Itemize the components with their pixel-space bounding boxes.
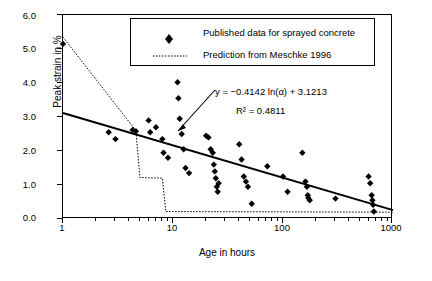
legend: Published data for sprayed concrete Pred…: [130, 18, 375, 66]
data-point: [182, 165, 188, 171]
data-point: [368, 192, 374, 198]
data-point: [175, 95, 181, 101]
data-point: [179, 131, 185, 137]
x-tick-1: 1: [42, 222, 82, 233]
x-minor-tickmark: [155, 218, 156, 221]
y-tick-0: 0.0: [0, 212, 36, 223]
y-axis-label: Peak strain in %: [52, 12, 63, 132]
y-tick-2: 2.0: [0, 145, 36, 156]
data-point: [367, 180, 373, 186]
legend-item-1-label: Prediction from Meschke 1996: [203, 49, 331, 60]
data-point: [186, 170, 192, 176]
x-minor-tickmark: [348, 218, 349, 221]
legend-markers: [141, 28, 201, 60]
x-minor-tickmark: [161, 218, 162, 221]
x-minor-tickmark: [277, 218, 278, 221]
data-point: [211, 161, 217, 167]
data-point: [284, 189, 290, 195]
data-point: [165, 155, 171, 161]
x-minor-tickmark: [381, 218, 382, 221]
y-tick-6: 6.0: [0, 10, 36, 21]
x-minor-tickmark: [167, 218, 168, 221]
series-trendline: [63, 113, 393, 210]
x-minor-tickmark: [148, 218, 149, 221]
x-minor-tickmark: [265, 218, 266, 221]
x-tick-10: 10: [152, 222, 192, 233]
data-point: [238, 156, 244, 162]
data-point: [112, 136, 118, 142]
data-point: [299, 150, 305, 156]
y-tick-5: 5.0: [0, 43, 36, 54]
series-data-points: [60, 41, 377, 215]
x-axis-label: Age in hours: [62, 247, 392, 258]
data-point: [213, 175, 219, 181]
r-squared-annotation: R² = 0.4811: [236, 105, 285, 116]
legend-item-0-label: Published data for sprayed concrete: [203, 27, 355, 38]
x-minor-tickmark: [95, 218, 96, 221]
x-minor-tickmark: [258, 218, 259, 221]
data-point: [147, 129, 153, 135]
data-point: [332, 195, 338, 201]
data-point: [145, 117, 151, 123]
x-minor-tickmark: [114, 218, 115, 221]
y-tick-1: 1.0: [0, 179, 36, 190]
annotation-arrow: [178, 90, 215, 131]
y-tick-4: 4.0: [0, 77, 36, 88]
x-minor-tickmark: [224, 218, 225, 221]
equation-annotation: y = −0.4142 ln(α) + 3.1213: [215, 86, 327, 97]
data-point: [365, 173, 371, 179]
x-minor-tickmark: [249, 218, 250, 221]
data-point: [105, 129, 111, 135]
x-minor-tickmark: [238, 218, 239, 221]
x-minor-tickmark: [205, 218, 206, 221]
x-minor-tickmark: [139, 218, 140, 221]
x-minor-tickmark: [387, 218, 388, 221]
data-point: [370, 202, 376, 208]
data-point: [212, 168, 218, 174]
data-point: [264, 163, 270, 169]
y-tick-3: 3.0: [0, 111, 36, 122]
x-minor-tickmark: [368, 218, 369, 221]
x-minor-tickmark: [315, 218, 316, 221]
chart-figure: Peak strain in % 6.0 5.0 4.0 3.0 2.0 1.0…: [0, 0, 432, 281]
data-point: [371, 208, 377, 214]
x-tick-100: 100: [262, 222, 302, 233]
x-minor-tickmark: [359, 218, 360, 221]
x-minor-tickmark: [375, 218, 376, 221]
x-minor-tickmark: [128, 218, 129, 221]
x-tick-1000: 1000: [371, 222, 411, 233]
data-point: [236, 141, 242, 147]
data-point: [174, 79, 180, 85]
data-point: [215, 189, 221, 195]
x-minor-tickmark: [271, 218, 272, 221]
data-point: [176, 116, 182, 122]
data-point: [160, 150, 166, 156]
x-minor-tickmark: [334, 218, 335, 221]
data-point: [249, 201, 255, 207]
data-point: [153, 124, 159, 130]
